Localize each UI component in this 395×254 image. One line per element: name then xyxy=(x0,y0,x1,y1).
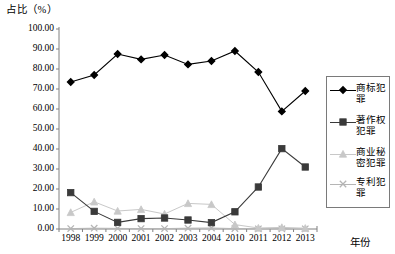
data-point-marker xyxy=(255,184,261,190)
data-point-marker xyxy=(161,215,167,221)
legend-marker-glyph xyxy=(330,116,356,128)
data-point-marker xyxy=(91,198,98,205)
legend-marker-icon xyxy=(330,116,356,128)
x-axis-tick-label: 2011 xyxy=(249,233,268,243)
data-point-marker xyxy=(68,79,74,85)
series-4 xyxy=(68,225,309,232)
x-axis-tick-label: 2013 xyxy=(296,233,315,243)
legend-item[interactable]: 商标犯罪 xyxy=(330,83,390,105)
data-point-marker xyxy=(67,209,74,216)
data-point-marker xyxy=(302,164,308,170)
chart-legend: 商标犯罪著作权犯罪商业秘密犯罪专利犯罪 xyxy=(326,76,390,208)
x-axis-tick-label: 2002 xyxy=(155,233,174,243)
data-point-marker xyxy=(185,217,191,223)
legend-marker-glyph xyxy=(330,178,356,190)
x-axis-tick-label: 2012 xyxy=(272,233,291,243)
x-axis-tick-label: 2003 xyxy=(179,233,198,243)
legend-item-label: 商业秘密犯罪 xyxy=(356,147,390,169)
data-point-marker xyxy=(91,208,97,214)
x-axis-tick-label: 1999 xyxy=(85,233,104,243)
series-3 xyxy=(67,198,309,231)
legend-marker-glyph xyxy=(330,84,356,96)
data-point-marker xyxy=(340,119,346,125)
legend-item[interactable]: 商业秘密犯罪 xyxy=(330,147,390,169)
series-line xyxy=(71,149,306,223)
data-point-marker xyxy=(208,219,214,225)
series-2 xyxy=(68,145,309,225)
data-point-marker xyxy=(68,189,74,195)
legend-item[interactable]: 著作权犯罪 xyxy=(330,115,390,137)
x-axis-tick-label: 2000 xyxy=(108,233,127,243)
x-axis-tick-label: 1998 xyxy=(61,233,80,243)
series-1 xyxy=(68,48,309,115)
data-point-marker xyxy=(340,181,346,187)
legend-item-label: 商标犯罪 xyxy=(356,83,390,105)
data-point-marker xyxy=(232,209,238,215)
x-axis-tick-label: 2001 xyxy=(132,233,151,243)
data-point-marker xyxy=(138,215,144,221)
legend-marker-icon xyxy=(330,148,356,160)
data-point-marker xyxy=(114,219,120,225)
data-point-marker xyxy=(161,52,167,58)
data-point-marker xyxy=(279,145,285,151)
x-axis-title: 年份 xyxy=(350,234,370,249)
data-point-marker xyxy=(339,150,346,157)
data-point-marker xyxy=(138,56,144,62)
data-point-marker xyxy=(208,58,214,64)
data-point-marker xyxy=(340,87,346,93)
legend-item-label: 专利犯罪 xyxy=(356,177,390,199)
legend-item-label: 著作权犯罪 xyxy=(356,115,390,137)
series-line xyxy=(71,51,306,111)
x-axis-tick-label: 2004 xyxy=(202,233,221,243)
legend-marker-icon xyxy=(330,178,356,190)
x-axis-tick-label: 2010 xyxy=(225,233,244,243)
legend-marker-icon xyxy=(330,84,356,96)
legend-item[interactable]: 专利犯罪 xyxy=(330,177,390,199)
legend-marker-glyph xyxy=(330,148,356,160)
chart-figure: 占比（%） 0.0010.0020.0030.0040.0050.0060.00… xyxy=(0,0,395,254)
data-point-marker xyxy=(185,61,191,67)
